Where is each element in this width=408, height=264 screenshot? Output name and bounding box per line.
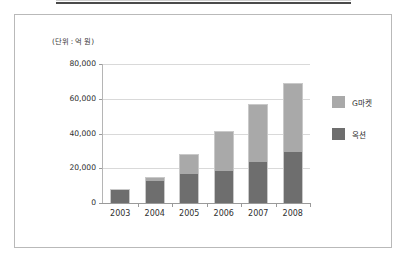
bar-series-area <box>103 64 310 203</box>
bar-group[interactable] <box>179 64 199 203</box>
bar-group[interactable] <box>214 64 234 203</box>
y-tick-label: 40,000 <box>50 129 96 138</box>
legend-label: G마켓 <box>352 97 372 108</box>
bar-outline <box>214 131 234 203</box>
y-tick-label: 60,000 <box>50 94 96 103</box>
bar-outline <box>283 83 303 203</box>
x-tick-mark <box>138 204 139 207</box>
y-axis-ticks: 020,00040,00060,00080,000 <box>50 0 96 264</box>
scan-line-faint <box>56 0 351 1</box>
legend-swatch <box>332 128 345 140</box>
x-tick-label: 2008 <box>273 209 313 218</box>
x-tick-mark <box>241 204 242 207</box>
chart-legend: G마켓옥션 <box>332 96 392 160</box>
bar-group[interactable] <box>145 64 165 203</box>
legend-label: 옥션 <box>352 129 366 140</box>
x-tick-mark <box>276 204 277 207</box>
legend-item[interactable]: G마켓 <box>332 96 392 128</box>
x-tick-mark <box>207 204 208 207</box>
scan-line <box>56 2 351 4</box>
legend-swatch <box>332 96 345 108</box>
bar-group[interactable] <box>248 64 268 203</box>
y-tick-label: 80,000 <box>50 59 96 68</box>
bar-outline <box>145 177 165 203</box>
bar-group[interactable] <box>283 64 303 203</box>
bar-outline <box>179 154 199 203</box>
bar-outline <box>248 104 268 203</box>
bar-outline <box>110 189 130 203</box>
y-tick-label: 0 <box>50 198 96 207</box>
legend-item[interactable]: 옥션 <box>332 128 392 160</box>
y-tick-label: 20,000 <box>50 163 96 172</box>
chart-page: (단위 : 억 원) 020,00040,00060,00080,000 200… <box>0 0 408 264</box>
x-tick-mark <box>310 204 311 207</box>
x-tick-mark <box>172 204 173 207</box>
bar-group[interactable] <box>110 64 130 203</box>
